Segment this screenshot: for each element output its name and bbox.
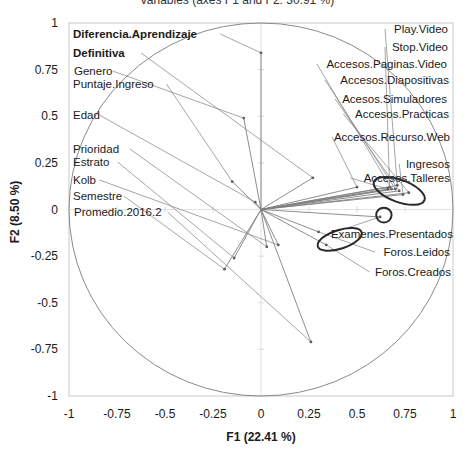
y-tick-label: -1 — [47, 389, 58, 403]
vector-accesos-talleres — [261, 189, 388, 210]
chart-title-cropped: Variables (axes F1 and F2: 30.91 %) — [140, 0, 335, 7]
vector-examenes-presentados — [261, 210, 380, 217]
vector-endpoint — [254, 201, 257, 204]
x-tick-label: -1 — [64, 407, 75, 421]
x-tick-label: 1 — [450, 407, 457, 421]
x-axis-title: F1 (22.41 %) — [226, 430, 295, 444]
label-prioridad: Prioridad — [73, 143, 119, 155]
label-stop-video: Stop.Video — [392, 41, 448, 53]
y-tick-label: -0.75 — [31, 342, 59, 356]
label-genero: Genero — [74, 65, 112, 77]
y-tick-label: 1 — [51, 16, 58, 30]
vector-semestre — [225, 210, 261, 270]
label-puntaje-ingreso: Puntaje.Ingreso — [73, 78, 154, 90]
leader-line — [168, 212, 311, 342]
y-axis-title: F2 (8.50 %) — [8, 181, 22, 244]
leader-line — [326, 245, 369, 272]
vector-promedio-2016-2 — [261, 210, 311, 342]
leader-line — [130, 149, 267, 247]
label-diferencia-aprendizaje: Diferencia.Aprendizaje — [73, 28, 197, 40]
x-tick-label: -0.25 — [199, 407, 227, 421]
leader-line — [220, 34, 261, 53]
label-examenes-presentados: Examenes.Presentados — [331, 228, 453, 240]
y-tick-label: 0.25 — [35, 156, 59, 170]
label-accesos-paginas-video: Accesos.Paginas.Video — [326, 58, 447, 70]
x-tick-label: 0.5 — [349, 407, 366, 421]
leader-line — [99, 115, 255, 202]
label-edad: Edad — [73, 109, 100, 121]
leader-line — [332, 137, 357, 187]
x-tick-label: 0 — [258, 407, 265, 421]
x-tick-label: -0.75 — [103, 407, 131, 421]
label-acesos-simuladores: Acesos.Simuladores — [342, 93, 447, 105]
x-tick-label: 0.25 — [297, 407, 321, 421]
label-estrato: Estrato — [73, 156, 109, 168]
label-promedio-2016-2: Promedio.2016.2 — [74, 206, 162, 218]
x-tick-label: 0.75 — [393, 407, 417, 421]
leader-line — [167, 84, 233, 182]
y-tick-label: -0.5 — [37, 296, 58, 310]
y-tick-label: -0.25 — [31, 249, 59, 263]
leader-line — [141, 53, 313, 178]
x-tick-label: -0.5 — [155, 407, 176, 421]
pca-correlation-circle-chart: Variables (axes F1 and F2: 30.91 %) Dife… — [0, 0, 473, 456]
label-accesos-recurso-web: Accesos.Recurso.Web — [334, 131, 450, 143]
y-tick-label: 0.75 — [35, 63, 59, 77]
y-tick-label: 0 — [51, 203, 58, 217]
label-accesos-practicas: Accesos.Practicas — [355, 108, 449, 120]
label-ingresos: Ingresos — [406, 158, 450, 170]
y-tick-label: 0.5 — [41, 109, 58, 123]
label-definitiva: Definitiva — [73, 47, 125, 59]
label-accesos-diapositivas: Accesos.Diapositivas — [340, 74, 449, 86]
vector-foros-creados — [261, 210, 326, 245]
label-foros-leidos: Foros.Leidos — [384, 246, 451, 258]
label-semestre: Semestre — [73, 190, 122, 202]
label-play-video: Play.Video — [394, 23, 448, 35]
label-kolb: Kolb — [73, 174, 96, 186]
label-foros-creados: Foros.Creados — [375, 266, 451, 278]
